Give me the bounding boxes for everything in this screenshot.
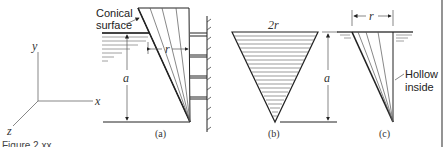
panel-a-label: (a) (155, 128, 166, 140)
x-axis-label: x (94, 94, 101, 108)
coordinate-axes: y x z (6, 39, 101, 138)
conical-surface-label-line1: Conical (96, 7, 133, 19)
panel-b: 2r a (b) (232, 18, 338, 140)
z-axis-label: z (6, 124, 12, 138)
dimension-2r-label: 2r (268, 18, 279, 32)
panel-a: Conical surface (96, 7, 211, 140)
figure-caption: Figure 2.xx (2, 140, 51, 147)
triangle-cross-section (232, 32, 318, 122)
hollow-inside-leader (395, 74, 404, 80)
dimension-r-label-a: r (165, 42, 170, 56)
dimension-r-c: r (352, 9, 393, 26)
support-wall (190, 16, 211, 132)
figure-canvas: y x z Conical surface (0, 0, 444, 147)
dimension-r-label-c: r (369, 9, 374, 23)
z-axis (13, 101, 38, 126)
hatch-lines (234, 36, 316, 116)
hollow-cone (352, 32, 393, 122)
hollow-inside-label-line2: inside (405, 81, 434, 93)
panel-b-label: (b) (268, 128, 280, 140)
hollow-inside-label-line1: Hollow (405, 68, 438, 80)
dimension-a-label-a: a (123, 71, 129, 85)
conical-surface (138, 8, 190, 122)
panel-c: r Hollow inside (c) (337, 0, 442, 147)
conical-surface-label-line2: surface (96, 19, 132, 31)
water-surface-c (337, 32, 413, 41)
panel-c-label: (c) (379, 128, 390, 140)
dimension-a-label-b: a (324, 71, 330, 85)
water-surface-a (102, 33, 150, 61)
y-axis-label: y (31, 39, 38, 53)
